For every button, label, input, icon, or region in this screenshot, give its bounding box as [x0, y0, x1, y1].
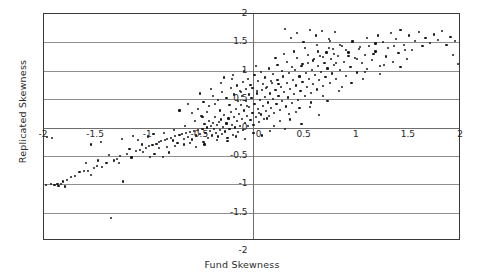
scatter-point: [273, 112, 275, 114]
scatter-point: [135, 150, 137, 152]
scatter-point: [168, 151, 170, 153]
scatter-point: [364, 71, 366, 73]
scatter-point: [266, 117, 268, 119]
scatter-point: [406, 58, 408, 60]
scatter-point: [310, 92, 312, 94]
scatter-point: [366, 37, 368, 39]
scatter-point: [399, 66, 401, 68]
scatter-point: [178, 109, 180, 111]
scatter-point: [219, 109, 221, 111]
y-tick-label: -1.5: [208, 207, 248, 217]
x-tick-label: -2: [39, 129, 48, 139]
scatter-point: [105, 162, 107, 164]
scatter-point: [243, 109, 245, 111]
scatter-point: [399, 29, 401, 31]
scatter-point: [350, 82, 352, 84]
scatter-point: [118, 162, 120, 164]
scatter-point: [253, 103, 255, 105]
scatter-point: [270, 107, 272, 109]
x-tick-label: -1: [143, 129, 152, 139]
plot-inner: [44, 14, 459, 239]
y-axis-line: [253, 14, 254, 239]
scatter-point: [404, 49, 406, 51]
scatter-point: [96, 165, 98, 167]
scatter-point: [295, 84, 297, 86]
scatter-point: [201, 116, 203, 118]
scatter-point: [379, 65, 381, 67]
scatter-point: [83, 170, 85, 172]
scatter-point: [153, 153, 155, 155]
scatter-point: [374, 42, 376, 44]
x-tick-label: 1: [353, 129, 359, 139]
scatter-point: [307, 54, 309, 56]
scatter-point: [275, 103, 277, 105]
scatter-point: [155, 143, 157, 145]
scatter-point: [221, 133, 223, 135]
scatter-point: [223, 76, 225, 78]
scatter-point: [148, 145, 150, 147]
scatter-point: [292, 79, 294, 81]
scatter-point: [122, 180, 124, 182]
scatter-point: [250, 97, 252, 99]
scatter-point: [390, 32, 392, 34]
scatter-point: [183, 138, 185, 140]
scatter-point: [392, 61, 394, 63]
scatter-point: [288, 113, 290, 115]
scatter-point: [317, 65, 319, 67]
scatter-point: [269, 92, 271, 94]
scatter-point: [160, 140, 162, 142]
scatter-point: [349, 66, 351, 68]
scatter-point: [283, 53, 285, 55]
scatter-point: [424, 37, 426, 39]
scatter-point: [191, 112, 193, 114]
scatter-point: [78, 171, 80, 173]
scatter-point: [90, 174, 92, 176]
scatter-point: [343, 61, 345, 63]
scatter-point: [341, 86, 343, 88]
scatter-point: [449, 36, 451, 38]
scatter-point: [300, 65, 302, 67]
scatter-point: [316, 88, 318, 90]
scatter-point: [323, 62, 325, 64]
scatter-point: [298, 75, 300, 77]
scatter-point: [228, 104, 230, 106]
scatter-point: [203, 143, 205, 145]
scatter-point: [418, 31, 420, 33]
scatter-point: [130, 156, 132, 158]
scatter-point: [121, 138, 123, 140]
scatter-point: [264, 76, 266, 78]
scatter-point: [208, 105, 210, 107]
scatter-point: [93, 167, 95, 169]
gridline-horizontal: [44, 184, 459, 185]
scatter-point: [309, 106, 311, 108]
scatter-point: [334, 31, 336, 33]
scatter-point: [279, 120, 281, 122]
scatter-point: [66, 179, 68, 181]
scatter-point: [261, 89, 263, 91]
scatter-point: [62, 180, 64, 182]
scatter-point: [362, 78, 364, 80]
scatter-point: [197, 108, 199, 110]
scatter-point: [269, 130, 271, 132]
scatter-point: [252, 132, 254, 134]
scatter-point: [307, 62, 309, 64]
scatter-point: [358, 48, 360, 50]
scatter-point: [403, 44, 405, 46]
scatter-point: [206, 111, 208, 113]
scatter-point: [203, 123, 205, 125]
scatter-point: [300, 123, 302, 125]
scatter-point: [268, 115, 270, 117]
scatter-point: [259, 99, 261, 101]
scatter-point: [333, 53, 335, 55]
scatter-point: [306, 86, 308, 88]
scatter-point: [166, 146, 168, 148]
scatter-point: [301, 81, 303, 83]
scatter-point: [223, 114, 225, 116]
scatter-point: [174, 145, 176, 147]
scatter-point: [248, 106, 250, 108]
scatter-point: [128, 148, 130, 150]
scatter-point: [312, 59, 314, 61]
scatter-point: [242, 81, 244, 83]
scatter-point: [251, 87, 253, 89]
scatter-point: [262, 105, 264, 107]
